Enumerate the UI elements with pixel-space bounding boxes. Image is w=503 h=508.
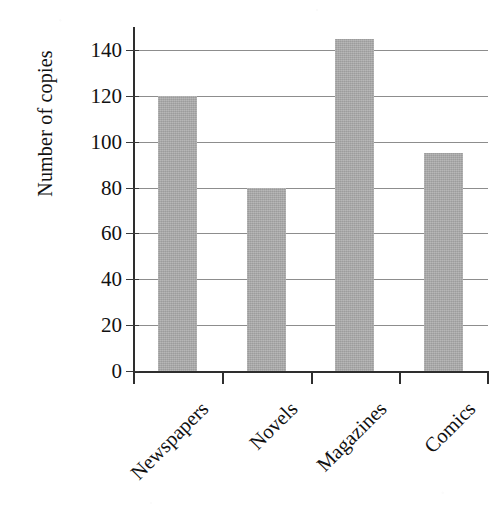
y-axis-tick bbox=[126, 279, 139, 280]
plot-area: 020406080100120140 bbox=[133, 27, 488, 371]
bar-chart-figure: Number of copies 020406080100120140 News… bbox=[0, 0, 503, 508]
x-axis-tick bbox=[399, 371, 401, 384]
x-axis-tick bbox=[487, 371, 489, 384]
bar-novels bbox=[247, 188, 286, 371]
y-axis-tick bbox=[126, 142, 139, 143]
y-axis-tick-label: 0 bbox=[112, 361, 123, 382]
y-axis-tick-label: 20 bbox=[101, 315, 122, 336]
x-axis-tick bbox=[311, 371, 313, 384]
gridline bbox=[133, 50, 488, 51]
bar-comics bbox=[424, 153, 463, 371]
y-axis-tick-label: 140 bbox=[91, 40, 123, 61]
y-axis-tick bbox=[126, 233, 139, 234]
y-axis-title: Number of copies bbox=[34, 16, 57, 231]
bar-newspapers bbox=[158, 96, 197, 371]
bar-magazines bbox=[335, 39, 374, 371]
x-axis-tick bbox=[133, 371, 135, 384]
y-axis-tick-label: 60 bbox=[101, 223, 122, 244]
y-axis-tick-label: 120 bbox=[91, 85, 123, 106]
y-axis-tick-label: 40 bbox=[101, 269, 122, 290]
y-axis-tick bbox=[126, 50, 139, 51]
y-axis-tick-label: 80 bbox=[101, 177, 122, 198]
x-axis-tick bbox=[222, 371, 224, 384]
x-axis-label-newspapers: Newspapers bbox=[0, 398, 213, 508]
y-axis-tick bbox=[126, 325, 139, 326]
y-axis-line bbox=[133, 27, 135, 372]
y-axis-tick-label: 100 bbox=[91, 131, 123, 152]
y-axis-tick bbox=[126, 96, 139, 97]
y-axis-tick bbox=[126, 188, 139, 189]
